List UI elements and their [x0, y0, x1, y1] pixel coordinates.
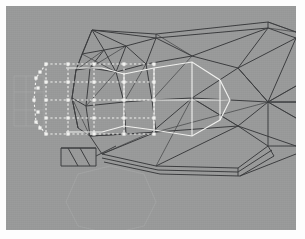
mesh-edge [86, 72, 116, 106]
vertex-handle[interactable] [92, 132, 95, 135]
vertex-handle[interactable] [44, 116, 47, 119]
vertex-handle[interactable] [32, 98, 35, 101]
vertex-handle[interactable] [44, 132, 47, 135]
vertex-handle[interactable] [38, 126, 41, 129]
mesh-edge [146, 38, 156, 64]
vertex-handle[interactable] [66, 132, 69, 135]
modeling-viewport[interactable] [6, 6, 296, 230]
vertex-handle[interactable] [122, 80, 125, 83]
mesh-edges-secondary [72, 22, 296, 166]
mesh-edge [86, 102, 124, 106]
mesh-edge [158, 170, 238, 172]
vertex-handle[interactable] [44, 62, 47, 65]
mesh-edge [240, 156, 274, 176]
vertex-handle[interactable] [34, 120, 37, 123]
vertex-handle[interactable] [36, 110, 39, 113]
wireframe-canvas[interactable] [6, 6, 296, 230]
vertex-handle[interactable] [66, 80, 69, 83]
app-root [0, 0, 305, 239]
vertex-handle[interactable] [34, 76, 37, 79]
mesh-edge [192, 68, 238, 98]
mesh-edge [268, 86, 296, 102]
vertex-handle[interactable] [92, 62, 95, 65]
mesh-edge [238, 146, 268, 168]
mesh-edge [268, 146, 274, 156]
vertex-handle[interactable] [66, 116, 69, 119]
mesh-edge [238, 126, 268, 146]
mesh-edge [68, 148, 78, 166]
vertex-handle[interactable] [152, 62, 155, 65]
mesh-edge [152, 98, 192, 132]
mesh-edge [268, 38, 296, 102]
vertex-handle[interactable] [66, 98, 69, 101]
mesh-edge [116, 46, 126, 72]
mesh-edge [160, 174, 240, 176]
mesh-edge [104, 162, 160, 174]
vertex-handle[interactable] [66, 62, 69, 65]
vertex-handle[interactable] [152, 98, 155, 101]
vertex-handle[interactable] [38, 70, 41, 73]
mesh-edge [61, 148, 96, 166]
vertex-handle[interactable] [122, 132, 125, 135]
mesh-edge [156, 38, 192, 56]
vertex-handle[interactable] [152, 132, 155, 135]
mesh-edge [238, 126, 296, 146]
mesh-edges-primary [61, 22, 296, 176]
vertex-handle[interactable] [122, 98, 125, 101]
vertex-handle[interactable] [122, 116, 125, 119]
vertex-handle[interactable] [92, 80, 95, 83]
vertex-handle[interactable] [152, 116, 155, 119]
ghost-edge [66, 166, 156, 230]
vertex-handle[interactable] [36, 86, 39, 89]
selection-edge [124, 126, 154, 130]
mesh-edge [126, 38, 156, 46]
mesh-edge [238, 68, 268, 102]
vertex-handle[interactable] [92, 98, 95, 101]
selection-edge [102, 126, 124, 132]
vertex-handle[interactable] [122, 62, 125, 65]
mesh-edge [80, 148, 90, 166]
mesh-edge [126, 46, 146, 64]
mesh-edge [238, 38, 296, 68]
mesh-edge [238, 150, 272, 172]
vertex-handle[interactable] [44, 98, 47, 101]
mesh-edge [72, 70, 76, 98]
mesh-edge [156, 28, 296, 38]
mesh-edge [238, 102, 268, 126]
mesh-edge [116, 72, 124, 102]
vertex-handle[interactable] [92, 116, 95, 119]
mesh-edge [72, 98, 78, 128]
vertex-handle[interactable] [152, 80, 155, 83]
mesh-edge [156, 166, 238, 168]
vertex-handle[interactable] [44, 80, 47, 83]
mesh-edge [192, 28, 268, 56]
ghost-edge [14, 76, 44, 126]
mesh-edge [268, 102, 296, 118]
mesh-edge [92, 30, 156, 34]
